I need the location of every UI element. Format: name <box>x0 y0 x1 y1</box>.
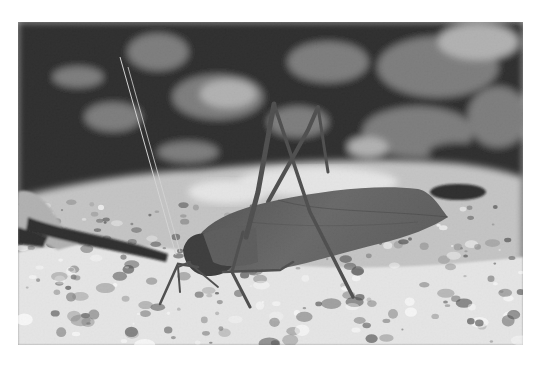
katydid-photo-illustration <box>18 22 523 345</box>
photo: Black-and-white photograph of a leaf-mim… <box>18 22 523 345</box>
film-grain <box>18 22 523 345</box>
